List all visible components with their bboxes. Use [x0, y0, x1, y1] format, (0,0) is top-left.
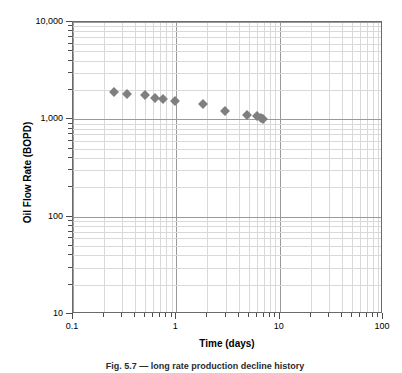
- y-axis-tick: [68, 267, 72, 268]
- y-axis-tick: [66, 216, 72, 217]
- x-axis-tick: [341, 313, 342, 317]
- y-axis-tick: [68, 245, 72, 246]
- x-axis-tick: [372, 313, 373, 317]
- x-axis-tick: [256, 313, 257, 317]
- data-point-marker: [198, 99, 208, 109]
- y-axis-tick: [68, 148, 72, 149]
- gridline-horizontal: [73, 22, 381, 23]
- x-axis-tick: [263, 313, 264, 317]
- y-axis-tick: [68, 254, 72, 255]
- gridline-horizontal: [73, 134, 381, 135]
- y-tick-label: 10: [53, 308, 63, 318]
- gridline-horizontal: [73, 141, 381, 142]
- y-axis-tick: [68, 43, 72, 44]
- x-axis-tick: [103, 313, 104, 317]
- x-axis-tick: [328, 313, 329, 317]
- gridline-horizontal: [73, 37, 381, 38]
- y-tick-label: 10,000: [35, 16, 63, 26]
- gridline-horizontal: [73, 158, 381, 159]
- y-axis-title: Oil Flow Rate (BOPD): [22, 93, 33, 253]
- y-tick-label: 1,000: [40, 113, 63, 123]
- figure-container: Oil Flow Rate (BOPD) Time (days) 101001,…: [0, 0, 402, 373]
- gridline-horizontal: [73, 246, 381, 247]
- y-axis-tick: [68, 60, 72, 61]
- x-tick-label: 1: [150, 321, 200, 331]
- gridline-horizontal: [73, 285, 381, 286]
- gridline-horizontal: [73, 268, 381, 269]
- x-axis-tick: [225, 313, 226, 317]
- x-axis-tick: [274, 313, 275, 317]
- gridline-horizontal: [73, 170, 381, 171]
- gridline-horizontal: [73, 51, 381, 52]
- y-axis-tick: [68, 220, 72, 221]
- y-axis-tick: [66, 313, 72, 314]
- x-axis-tick: [351, 313, 352, 317]
- gridline-horizontal: [73, 129, 381, 130]
- gridline-horizontal: [73, 119, 381, 120]
- y-tick-label: 100: [48, 211, 63, 221]
- data-point-marker: [220, 106, 230, 116]
- y-axis-tick: [68, 231, 72, 232]
- y-axis-tick: [68, 186, 72, 187]
- x-tick-label: 0.1: [47, 321, 97, 331]
- gridline-horizontal: [73, 26, 381, 27]
- x-axis-tick: [359, 313, 360, 317]
- x-tick-label: 100: [357, 321, 402, 331]
- x-axis-tick: [279, 313, 280, 319]
- x-axis-tick: [121, 313, 122, 317]
- gridline-horizontal: [73, 232, 381, 233]
- x-axis-tick: [175, 313, 176, 319]
- x-axis-tick: [382, 313, 383, 319]
- gridline-horizontal: [73, 255, 381, 256]
- x-axis-tick: [144, 313, 145, 317]
- gridline-horizontal: [73, 124, 381, 125]
- x-axis-tick: [238, 313, 239, 317]
- x-axis-tick: [152, 313, 153, 317]
- y-axis-tick: [66, 118, 72, 119]
- gridline-horizontal: [73, 73, 381, 74]
- x-axis-tick: [366, 313, 367, 317]
- y-axis-tick: [68, 225, 72, 226]
- x-axis-tick: [248, 313, 249, 317]
- x-axis-tick: [310, 313, 311, 317]
- y-axis-tick: [68, 237, 72, 238]
- data-point-marker: [140, 90, 150, 100]
- x-axis-tick: [171, 313, 172, 317]
- y-axis-tick: [68, 140, 72, 141]
- x-axis-tick: [159, 313, 160, 317]
- plot-area: [72, 21, 382, 313]
- gridline-horizontal: [73, 61, 381, 62]
- gridline-horizontal: [73, 44, 381, 45]
- x-axis-tick: [269, 313, 270, 317]
- figure-caption: Fig. 5.7 — long rate production decline …: [40, 361, 370, 373]
- x-tick-label: 10: [254, 321, 304, 331]
- data-point-marker: [109, 87, 119, 97]
- y-axis-tick: [68, 157, 72, 158]
- y-axis-tick: [68, 89, 72, 90]
- x-axis-tick: [377, 313, 378, 317]
- y-axis-tick: [68, 128, 72, 129]
- x-axis-tick: [206, 313, 207, 317]
- x-axis-tick: [134, 313, 135, 317]
- gridline-horizontal: [73, 238, 381, 239]
- gridline-horizontal: [73, 187, 381, 188]
- y-axis-tick: [68, 30, 72, 31]
- gridline-horizontal: [73, 31, 381, 32]
- y-axis-tick: [68, 284, 72, 285]
- y-axis-tick: [68, 36, 72, 37]
- x-axis-tick: [165, 313, 166, 317]
- y-axis-tick: [68, 123, 72, 124]
- gridline-horizontal: [73, 217, 381, 218]
- gridline-horizontal: [73, 226, 381, 227]
- x-axis-title: Time (days): [72, 338, 382, 349]
- y-axis-tick: [68, 169, 72, 170]
- y-axis-tick: [66, 21, 72, 22]
- y-axis-tick: [68, 72, 72, 73]
- y-axis-tick: [68, 50, 72, 51]
- y-axis-tick: [68, 25, 72, 26]
- data-point-marker: [258, 114, 268, 124]
- gridline-horizontal: [73, 90, 381, 91]
- gridline-horizontal: [73, 221, 381, 222]
- gridline-horizontal: [73, 149, 381, 150]
- x-axis-tick: [72, 313, 73, 319]
